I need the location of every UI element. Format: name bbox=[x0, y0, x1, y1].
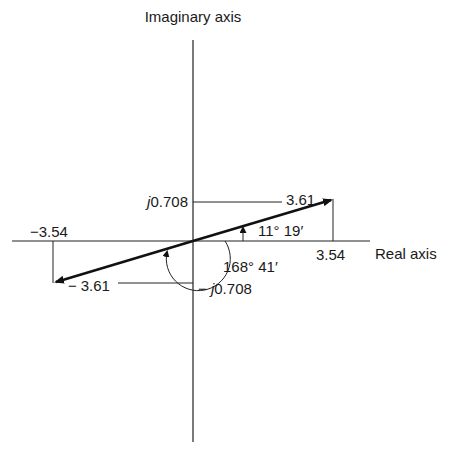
magnitude-negative-label: −3.61 bbox=[68, 277, 110, 294]
magnitude-positive-label: 3.61 bbox=[286, 191, 315, 208]
real-positive-label: 3.54 bbox=[316, 246, 345, 263]
imaginary-axis-label: Imaginary axis bbox=[145, 8, 242, 25]
real-negative-label: −3.54 bbox=[30, 223, 68, 240]
real-axis-label: Real axis bbox=[375, 245, 437, 262]
angle-small-label: 11° 19′ bbox=[258, 222, 303, 239]
angle-large-label: 168° 41′ bbox=[223, 258, 278, 275]
phasor-diagram: Imaginary axis Real axis 3.54 −3.54 j0.7… bbox=[0, 0, 454, 449]
imag-positive-label: j0.708 bbox=[145, 193, 188, 210]
phasor-vector-negative bbox=[56, 241, 193, 282]
imag-negative-label: − j0.708 bbox=[198, 280, 252, 297]
